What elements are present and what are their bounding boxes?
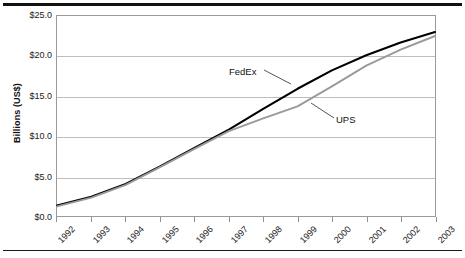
ups-leader-line [311, 103, 334, 118]
annotation-leader-lines [0, 0, 465, 258]
series-label-ups: UPS [336, 114, 356, 125]
figure-container: Billions (US$) $0.0$5.0$10.0$15.0$20.0$2… [0, 0, 465, 258]
bottom-rule [3, 250, 462, 251]
series-label-fedex: FedEx [229, 66, 256, 77]
fedex-leader-line [264, 70, 291, 84]
